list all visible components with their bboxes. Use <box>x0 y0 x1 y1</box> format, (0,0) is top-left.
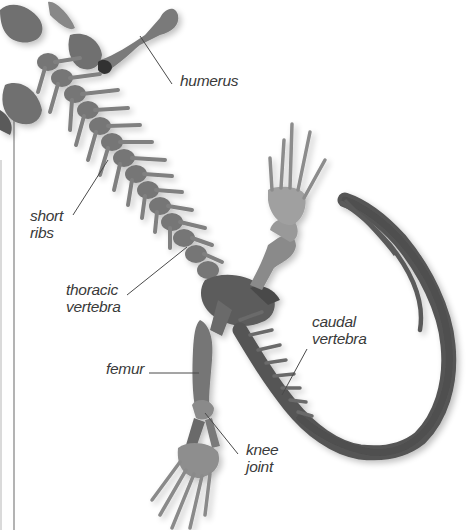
label-short-ribs: short ribs <box>30 207 63 241</box>
label-knee-joint: knee joint <box>246 441 278 475</box>
thoracic-vertebrae <box>37 53 230 295</box>
humerus-bone <box>98 9 178 74</box>
leader-short-ribs <box>73 160 108 215</box>
caudal-processes <box>240 312 312 416</box>
label-knee-line1: knee <box>246 441 278 458</box>
hind-limb-upper <box>250 219 298 290</box>
label-humerus: humerus <box>180 72 238 89</box>
label-thoracic-line1: thoracic <box>66 281 120 298</box>
hind-foot-lower <box>152 443 219 528</box>
skeleton-diagram: humerus short ribs thoracic vertebra cau… <box>0 0 468 530</box>
femur-bone <box>186 320 220 448</box>
label-caudal-line1: caudal <box>312 313 366 330</box>
label-caudal-line2: vertebra <box>312 330 366 347</box>
label-caudal-vertebra: caudal vertebra <box>312 313 366 347</box>
hind-foot-upper <box>268 124 325 225</box>
label-short-ribs-line1: short <box>30 207 63 224</box>
leader-humerus <box>140 36 172 84</box>
label-humerus-line1: humerus <box>180 72 238 89</box>
label-femur: femur <box>106 360 144 377</box>
label-femur-line1: femur <box>106 360 144 377</box>
label-thoracic-line2: vertebra <box>66 298 120 315</box>
label-knee-line2: joint <box>246 458 278 475</box>
label-short-ribs-line2: ribs <box>30 224 63 241</box>
label-thoracic-vertebra: thoracic vertebra <box>66 281 120 315</box>
leader-thoracic <box>127 247 187 295</box>
